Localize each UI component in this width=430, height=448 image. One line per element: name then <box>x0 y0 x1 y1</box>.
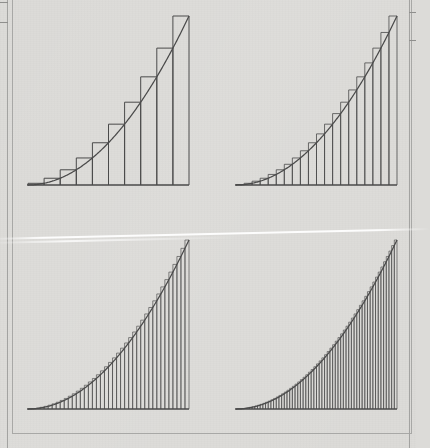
riemann-rectangle <box>92 143 108 185</box>
riemann-panel-bottom-right <box>208 224 416 448</box>
riemann-rectangles <box>28 240 189 409</box>
riemann-rectangle <box>330 348 333 409</box>
riemann-rectangle <box>349 322 352 409</box>
riemann-rectangle <box>365 63 373 185</box>
riemann-rectangle <box>349 90 357 185</box>
riemann-rectangle <box>104 367 108 409</box>
riemann-rectangle <box>381 267 384 409</box>
riemann-rectangle <box>284 392 287 409</box>
riemann-rectangle <box>394 240 397 409</box>
riemann-rectangle <box>370 287 373 409</box>
riemann-rectangle <box>141 320 145 409</box>
riemann-rectangle <box>173 16 189 185</box>
riemann-rectangle <box>325 355 328 409</box>
riemann-rectangle <box>161 287 165 409</box>
riemann-rectangle <box>378 272 381 409</box>
riemann-rectangles <box>28 16 189 185</box>
riemann-rectangle <box>287 390 290 409</box>
riemann-rectangle <box>327 351 330 409</box>
riemann-rectangle <box>311 370 314 409</box>
riemann-rectangle <box>92 378 96 409</box>
riemann-rectangle <box>96 375 100 409</box>
riemann-rectangle <box>181 248 185 409</box>
riemann-rectangles <box>236 16 397 185</box>
riemann-rectangle <box>341 102 349 185</box>
riemann-chart-n40 <box>0 224 208 448</box>
riemann-rectangle <box>357 77 365 185</box>
riemann-rectangle <box>145 314 149 409</box>
riemann-rectangle <box>362 301 365 409</box>
riemann-rectangle <box>308 372 311 409</box>
riemann-rectangle <box>169 272 173 409</box>
riemann-rectangle <box>300 380 303 409</box>
riemann-rectangle <box>335 341 338 409</box>
riemann-rectangle <box>389 251 392 409</box>
riemann-rectangle <box>157 294 161 409</box>
riemann-chart-n20 <box>208 0 416 224</box>
riemann-panel-bottom-left <box>0 224 208 448</box>
riemann-rectangle <box>367 292 370 409</box>
riemann-rectangle <box>125 343 129 409</box>
riemann-rectangle <box>149 307 153 409</box>
riemann-rectangle <box>306 375 309 409</box>
riemann-rectangle <box>351 318 354 409</box>
riemann-rectangle <box>322 358 325 409</box>
riemann-rectangle <box>386 256 389 409</box>
riemann-rectangle <box>137 326 141 409</box>
riemann-rectangle <box>343 330 346 409</box>
riemann-rectangle <box>282 394 285 409</box>
riemann-rectangle <box>365 296 368 409</box>
riemann-panel-top-left <box>0 0 208 224</box>
riemann-rectangle <box>298 382 301 409</box>
riemann-rectangle <box>392 246 395 409</box>
riemann-rectangle <box>157 48 173 185</box>
riemann-rectangle <box>357 310 360 409</box>
riemann-rectangle <box>113 358 117 409</box>
riemann-rectangle <box>354 314 357 409</box>
riemann-chart-n10 <box>0 0 208 224</box>
riemann-rectangle <box>389 16 397 185</box>
riemann-rectangle <box>314 367 317 409</box>
riemann-rectangle <box>319 361 322 409</box>
riemann-rectangle <box>165 280 169 409</box>
riemann-rectangle <box>173 264 177 409</box>
riemann-rectangle <box>153 301 157 409</box>
riemann-rectangle <box>333 114 341 185</box>
riemann-rectangle <box>109 362 113 409</box>
riemann-rectangle <box>84 385 88 409</box>
riemann-rectangle <box>346 326 349 409</box>
riemann-rectangle <box>359 305 362 409</box>
riemann-rectangle <box>117 353 121 409</box>
riemann-rectangle <box>88 382 92 409</box>
riemann-rectangle <box>295 384 298 409</box>
riemann-rectangle <box>341 334 344 409</box>
riemann-rectangle <box>177 256 181 409</box>
riemann-rectangle <box>129 338 133 409</box>
riemann-rectangle <box>300 151 308 185</box>
riemann-rectangle <box>317 364 320 409</box>
riemann-rectangle <box>338 338 341 409</box>
riemann-rectangle <box>376 277 379 409</box>
riemann-rectangle <box>384 262 387 409</box>
riemann-rectangles <box>236 240 397 409</box>
riemann-chart-n60 <box>208 224 416 448</box>
riemann-rectangle <box>185 240 189 409</box>
riemann-rectangle <box>303 377 306 409</box>
riemann-rectangle <box>141 77 157 185</box>
riemann-rectangle <box>290 388 293 409</box>
riemann-rectangle <box>76 158 92 185</box>
riemann-rectangle <box>373 48 381 185</box>
riemann-panel-top-right <box>208 0 416 224</box>
riemann-rectangle <box>381 32 389 185</box>
riemann-rectangle <box>133 332 137 409</box>
riemann-rectangle <box>292 386 295 409</box>
riemann-rectangle <box>121 348 125 409</box>
riemann-rectangle <box>100 371 104 409</box>
riemann-rectangle <box>333 345 336 409</box>
riemann-rectangle <box>373 282 376 409</box>
